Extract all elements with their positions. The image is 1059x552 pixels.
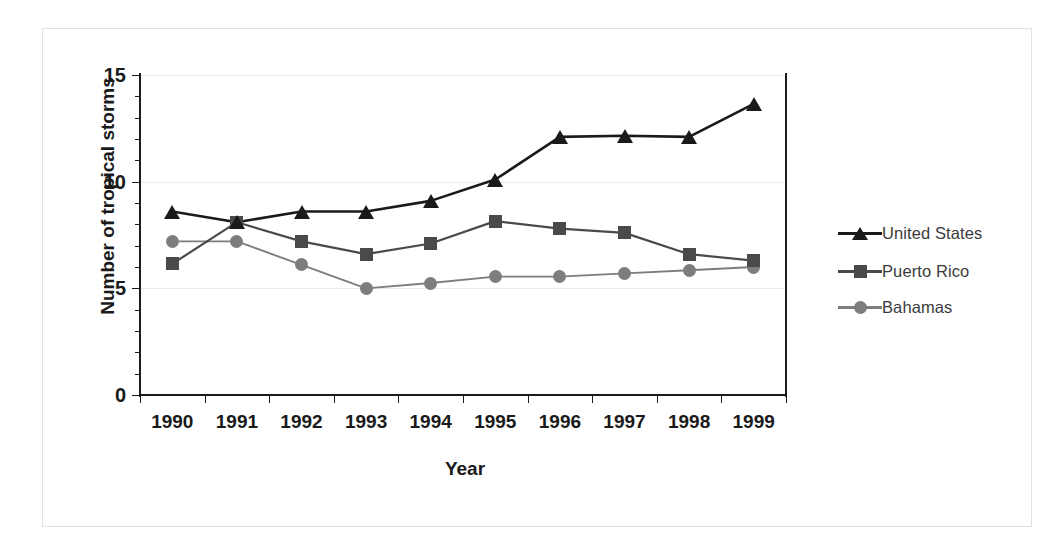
legend-item-puerto-rico: Puerto Rico [838,260,969,282]
legend-item-united-states: United States [838,222,982,244]
data-point-marker [552,130,568,144]
x-axis-tick-label: 1993 [331,412,401,433]
series-line [172,104,753,222]
x-axis-tick [721,396,722,403]
data-point-marker [360,282,373,295]
plot-area [140,75,786,395]
x-axis-tick [140,396,141,403]
y-axis-tick-label: 0 [86,385,126,405]
x-axis-tick-label: 1991 [202,412,272,433]
data-point-marker [683,248,696,261]
data-point-marker [746,97,762,111]
data-point-marker [166,235,179,248]
legend-swatch [838,261,882,281]
x-axis-tick [205,396,206,403]
legend-swatch [838,223,882,243]
x-axis-tick-label: 1999 [719,412,789,433]
data-point-marker [489,270,502,283]
x-axis-tick-label: 1997 [590,412,660,433]
data-point-marker [295,235,308,248]
x-axis-tick-label: 1995 [460,412,530,433]
legend-marker-square-icon [854,265,867,278]
x-axis-tick-label: 1998 [654,412,724,433]
y-axis-tick-label: 5 [86,278,126,298]
y-axis-tick-label: 15 [86,65,126,85]
x-axis-tick [334,396,335,403]
x-axis-tick [592,396,593,403]
x-axis-tick [269,396,270,403]
data-point-marker [164,205,180,219]
data-point-marker [681,130,697,144]
data-point-marker [294,205,310,219]
legend-label: United States [882,224,982,243]
data-point-marker [229,215,245,229]
data-point-marker [553,222,566,235]
data-point-marker [489,215,502,228]
x-axis-tick-label: 1992 [267,412,337,433]
data-point-marker [423,194,439,208]
y-axis-tick-label: 10 [86,172,126,192]
x-axis-tick-label: 1990 [137,412,207,433]
data-point-marker [617,129,633,143]
series-line [172,221,753,264]
x-axis-tick [463,396,464,403]
legend-swatch [838,297,882,317]
x-axis-tick [786,396,787,403]
legend-item-bahamas: Bahamas [838,296,952,318]
data-point-marker [424,237,437,250]
data-point-marker [166,257,179,270]
chart-screenshot: Number of tropical storms 051015 1990199… [0,0,1059,552]
x-axis-tick [528,396,529,403]
legend-marker-circle-icon [854,301,867,314]
x-axis-tick-label: 1994 [396,412,466,433]
x-axis-tick [657,396,658,403]
data-point-marker [683,264,696,277]
data-point-marker [618,226,631,239]
data-point-marker [487,173,503,187]
legend-label: Puerto Rico [882,262,969,281]
legend-marker-triangle-icon [852,227,868,240]
x-axis-tick-label: 1996 [525,412,595,433]
x-axis-title: Year [0,458,930,480]
data-point-marker [747,254,760,267]
data-point-marker [618,267,631,280]
data-point-marker [358,205,374,219]
x-axis-tick [398,396,399,403]
data-point-marker [360,248,373,261]
legend-label: Bahamas [882,298,952,317]
series-line [172,241,753,288]
data-point-marker [424,277,437,290]
